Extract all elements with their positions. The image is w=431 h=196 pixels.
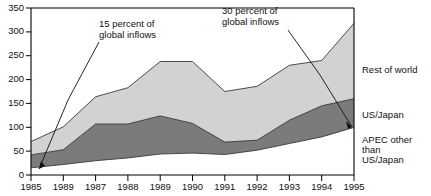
legend-label-rest-of-world: Rest of world	[362, 64, 417, 75]
y-tick-label-350: 350	[8, 2, 24, 13]
x-tick-label-0: 1985	[20, 181, 41, 192]
x-tick-label-7: 1992	[247, 181, 268, 192]
y-tick-label-100: 100	[8, 121, 24, 132]
annotation-30-percent-line1: 30 percent of	[222, 5, 278, 16]
y-tick-label-150: 150	[8, 97, 24, 108]
y-axis-ticks	[26, 8, 31, 175]
annotation-15-percent-line1: 15 percent of	[99, 18, 155, 29]
annotation-15-percent-line2: global inflows	[99, 29, 156, 40]
y-tick-label-0: 0	[19, 169, 24, 180]
y-tick-label-250: 250	[8, 49, 24, 60]
x-tick-label-9: 1994	[311, 181, 332, 192]
x-tick-label-3: 1988	[117, 181, 138, 192]
x-tick-label-2: 1987	[85, 181, 106, 192]
y-tick-label-50: 50	[13, 145, 24, 156]
legend-label-us-japan: US/Japan	[362, 109, 404, 120]
x-tick-label-4: 1989	[150, 181, 171, 192]
legend-label-apec-line3: US/Japan	[362, 154, 404, 165]
y-tick-label-200: 200	[8, 73, 24, 84]
x-tick-label-6: 1991	[214, 181, 235, 192]
x-tick-label-1: 1989	[53, 181, 74, 192]
annotation-30-percent-line2: global inflows	[222, 16, 279, 27]
x-axis-ticks	[31, 175, 354, 181]
x-tick-label-8: 1993	[279, 181, 300, 192]
x-tick-label-10: 1995	[343, 181, 364, 192]
y-tick-label-300: 300	[8, 25, 24, 36]
x-tick-label-5: 1990	[182, 181, 203, 192]
area-chart: 0 50 100 150 200 250 300 350 1985 1989 1…	[0, 0, 431, 196]
